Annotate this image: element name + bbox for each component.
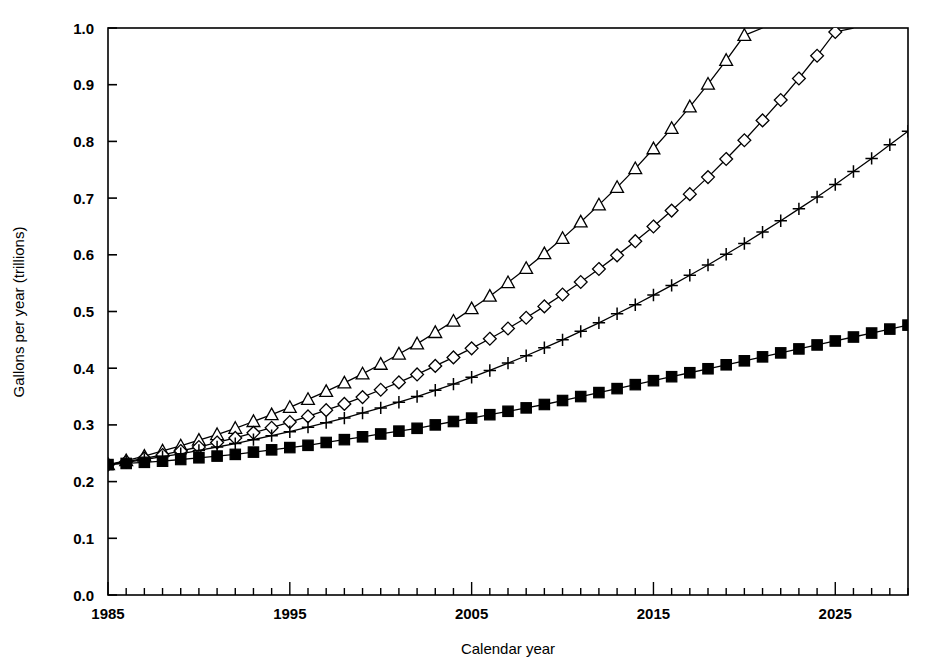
marker-square <box>794 344 804 354</box>
figure-background <box>0 0 930 671</box>
x-tick-label: 2025 <box>819 605 852 622</box>
marker-square <box>866 328 876 338</box>
marker-square <box>430 420 440 430</box>
chart-svg: 0.00.10.20.30.40.50.60.70.80.91.0 198519… <box>0 0 930 671</box>
y-tick-label: 0.9 <box>73 76 94 93</box>
marker-square <box>757 352 767 362</box>
marker-square <box>739 356 749 366</box>
y-tick-label: 1.0 <box>73 20 94 37</box>
x-tick-label: 2015 <box>637 605 670 622</box>
marker-square <box>521 403 531 413</box>
chart-figure: 0.00.10.20.30.40.50.60.70.80.91.0 198519… <box>0 0 930 671</box>
marker-square <box>321 437 331 447</box>
y-tick-label: 0.5 <box>73 303 94 320</box>
y-tick-label: 0.1 <box>73 530 94 547</box>
y-tick-label: 0.2 <box>73 473 94 490</box>
marker-square <box>648 375 658 385</box>
marker-square <box>776 348 786 358</box>
marker-square <box>666 372 676 382</box>
marker-square <box>266 445 276 455</box>
marker-square <box>285 442 295 452</box>
marker-square <box>830 336 840 346</box>
marker-square <box>630 379 640 389</box>
marker-square <box>812 340 822 350</box>
x-tick-label: 1995 <box>273 605 306 622</box>
x-tick-label: 1985 <box>91 605 124 622</box>
marker-square <box>539 399 549 409</box>
marker-square <box>339 434 349 444</box>
marker-square <box>848 332 858 342</box>
marker-square <box>612 383 622 393</box>
y-tick-label: 0.8 <box>73 133 94 150</box>
marker-square <box>594 387 604 397</box>
x-tick-label: 2005 <box>455 605 488 622</box>
marker-square <box>357 432 367 442</box>
marker-square <box>157 456 167 466</box>
marker-square <box>557 395 567 405</box>
marker-square <box>485 409 495 419</box>
marker-square <box>685 368 695 378</box>
y-axis-label: Gallons per year (trillions) <box>10 227 27 398</box>
marker-square <box>721 360 731 370</box>
marker-square <box>303 440 313 450</box>
y-tick-label: 0.7 <box>73 190 94 207</box>
marker-square <box>212 451 222 461</box>
marker-square <box>703 364 713 374</box>
marker-square <box>885 324 895 334</box>
marker-square <box>376 429 386 439</box>
y-tick-label: 0.3 <box>73 416 94 433</box>
marker-square <box>448 416 458 426</box>
marker-square <box>412 423 422 433</box>
marker-square <box>503 406 513 416</box>
marker-square <box>394 426 404 436</box>
marker-square <box>176 454 186 464</box>
y-tick-label: 0.6 <box>73 246 94 263</box>
marker-square <box>576 391 586 401</box>
marker-square <box>230 449 240 459</box>
marker-square <box>248 447 258 457</box>
marker-square <box>121 458 131 468</box>
x-axis-label: Calendar year <box>461 640 555 657</box>
y-tick-label: 0.4 <box>73 360 95 377</box>
marker-square <box>139 457 149 467</box>
marker-square <box>466 413 476 423</box>
y-tick-label: 0.0 <box>73 587 94 604</box>
marker-square <box>194 453 204 463</box>
